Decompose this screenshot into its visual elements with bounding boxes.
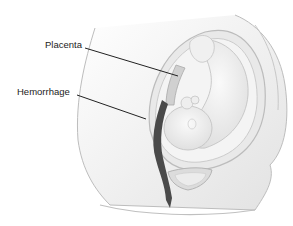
hemorrhage-label: Hemorrhage	[17, 87, 70, 97]
anatomy-illustration	[0, 0, 293, 226]
diagram-canvas: Placenta Hemorrhage	[0, 0, 293, 226]
placenta-label: Placenta	[45, 40, 82, 50]
